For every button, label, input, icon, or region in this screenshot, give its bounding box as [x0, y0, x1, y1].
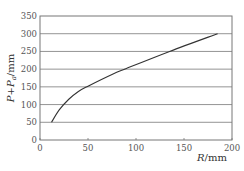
- y-tick-label: 300: [21, 29, 37, 39]
- y-tick-label: 100: [21, 100, 37, 110]
- chart: 050100150200250300350 050100150200 R/mm …: [0, 0, 244, 171]
- x-tick-label: 50: [83, 143, 94, 153]
- x-tick-label: 100: [128, 143, 144, 153]
- svg-text:P+Pa/mm: P+Pa/mm: [5, 53, 18, 103]
- plot-frame: [40, 16, 232, 140]
- y-axis-label: P+Pa/mm: [5, 53, 18, 103]
- x-axis-label: R/mm: [196, 152, 227, 163]
- y-tick-label: 0: [32, 135, 37, 145]
- y-tick-labels: 050100150200250300350: [21, 11, 37, 145]
- x-tick-label: 150: [176, 143, 192, 153]
- y-tick-label: 200: [21, 64, 37, 74]
- x-tick-label: 0: [37, 143, 42, 153]
- y-tick-label: 350: [21, 11, 37, 21]
- y-tick-label: 250: [21, 46, 37, 56]
- y-tick-label: 50: [26, 117, 37, 127]
- data-curve: [52, 34, 218, 123]
- gridlines: [40, 34, 232, 123]
- y-tick-label: 150: [21, 82, 37, 92]
